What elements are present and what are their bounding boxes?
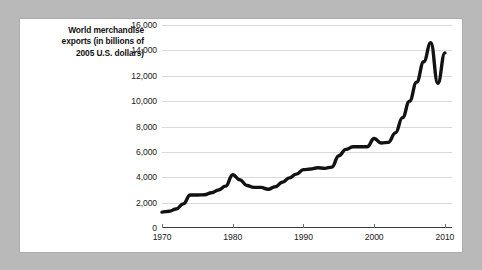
y-axis-caption: World merchandise exports (in billions o… bbox=[22, 25, 144, 59]
y-tick-label: 8,000 bbox=[136, 122, 157, 132]
x-tick-label: 1970 bbox=[153, 232, 172, 242]
y-tick-label: 16,000 bbox=[131, 20, 157, 30]
y-tick-label: 2,000 bbox=[136, 198, 157, 208]
y-tick-label: 4,000 bbox=[136, 172, 157, 182]
y-tick-label: 14,000 bbox=[131, 45, 157, 55]
caption-line-1: World merchandise bbox=[22, 25, 144, 36]
x-tick-label: 2000 bbox=[365, 232, 384, 242]
caption-line-2: exports (in billions of bbox=[22, 36, 144, 47]
x-tick-label: 1980 bbox=[223, 232, 242, 242]
line-chart: World merchandise exports (in billions o… bbox=[20, 19, 462, 252]
y-tick-label: 6,000 bbox=[136, 147, 157, 157]
x-tick-label: 1990 bbox=[294, 232, 313, 242]
figure-card: World merchandise exports (in billions o… bbox=[20, 19, 462, 252]
series-layer bbox=[162, 25, 452, 228]
plot-area: 02,0004,0006,0008,00010,00012,00014,0001… bbox=[162, 25, 452, 228]
y-tick-label: 12,000 bbox=[131, 71, 157, 81]
x-tick-label: 2010 bbox=[436, 232, 455, 242]
y-tick-label: 10,000 bbox=[131, 96, 157, 106]
caption-line-3: 2005 U.S. dollars) bbox=[22, 48, 144, 59]
series-line-world-merchandise-exports bbox=[162, 43, 445, 212]
